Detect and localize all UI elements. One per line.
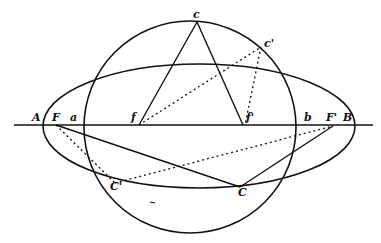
dotted-f-c2 xyxy=(139,47,261,125)
line-f-c xyxy=(139,22,197,125)
label-c: c xyxy=(193,8,200,21)
label-F: F xyxy=(51,111,61,124)
stray-mark xyxy=(150,202,155,203)
dotted-F-C2 xyxy=(56,125,115,183)
label-f: f xyxy=(130,111,138,124)
ellipse xyxy=(43,64,355,188)
circle xyxy=(84,21,296,233)
label-b: b xyxy=(304,111,312,124)
label-C: C xyxy=(238,186,247,199)
label-f-prime: f' xyxy=(245,111,254,124)
label-c-prime: c' xyxy=(264,37,274,50)
label-a: a xyxy=(70,111,77,124)
label-F-prime: F' xyxy=(325,111,337,124)
line-F-C xyxy=(56,125,240,187)
label-C-prime: C' xyxy=(110,180,122,193)
geometry-diagram: A F a f f' b F' B c c' C' C xyxy=(0,0,381,243)
dotted-C2-F2 xyxy=(115,126,333,183)
label-A: A xyxy=(31,111,41,124)
label-B: B xyxy=(342,111,352,124)
